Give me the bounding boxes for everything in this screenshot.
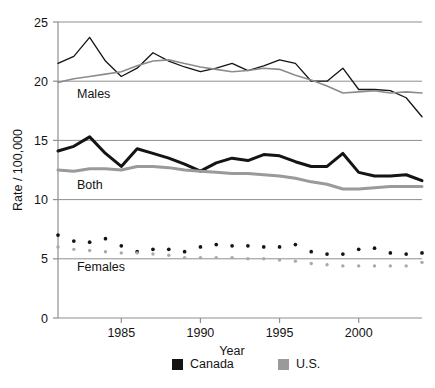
- legend-label-canada: Canada: [190, 357, 234, 371]
- series-females-canada-point: [183, 250, 187, 254]
- series-females-us-point: [135, 251, 138, 254]
- y-tick-labels: 0510152025: [34, 16, 48, 326]
- series-females-canada-point: [167, 247, 171, 251]
- series-females-us-point: [341, 264, 344, 267]
- annotation-both: Both: [77, 178, 103, 192]
- legend: CanadaU.S.: [172, 357, 320, 371]
- series-females-us-point: [404, 264, 407, 267]
- series-females-canada-point: [72, 239, 76, 243]
- x-tick-label-2000: 2000: [345, 326, 373, 340]
- y-tick-label-10: 10: [34, 193, 48, 207]
- series-females-canada-point: [104, 237, 108, 241]
- series-females-canada-point: [278, 245, 282, 249]
- series-females-us-point: [325, 263, 328, 266]
- series-females-canada-point: [151, 247, 155, 251]
- series-females-us-point: [151, 252, 154, 255]
- y-tick-label-20: 20: [34, 75, 48, 89]
- series-females-canada-point: [246, 244, 250, 248]
- series-females-canada-point: [119, 244, 123, 248]
- series-females-us-point: [373, 264, 376, 267]
- series-females-us-point: [389, 264, 392, 267]
- series-females-us-point: [72, 248, 75, 251]
- y-tick-label-15: 15: [34, 134, 48, 148]
- series-females-canada-point: [373, 246, 377, 250]
- series-females-us-point: [262, 257, 265, 260]
- legend-label-us: U.S.: [296, 357, 320, 371]
- legend-swatch-us: [278, 359, 289, 370]
- series-females-us-point: [199, 256, 202, 259]
- series-females-canada-point: [262, 245, 266, 249]
- series-females-canada-point: [88, 240, 92, 244]
- y-tick-label-25: 25: [34, 16, 48, 30]
- series-females-canada-point: [420, 251, 424, 255]
- series-group-both: [58, 137, 422, 189]
- line-chart: 05101520251985199019952000YearRate / 100…: [0, 0, 435, 388]
- series-females-us-point: [56, 245, 59, 248]
- x-axis-title: Year: [219, 344, 244, 358]
- series-females-canada-point: [341, 252, 345, 256]
- gridlines: [58, 22, 422, 259]
- series-females-canada-point: [56, 233, 60, 237]
- series-females-us-point: [120, 251, 123, 254]
- x-tick-label-1985: 1985: [107, 326, 135, 340]
- series-females-us-point: [294, 259, 297, 262]
- x-tick-label-1990: 1990: [187, 326, 215, 340]
- x-tick-label-1995: 1995: [266, 326, 294, 340]
- series-females-us-point: [230, 256, 233, 259]
- series-males-canada-line: [58, 37, 422, 116]
- series-females-canada-point: [309, 250, 313, 254]
- series-females-us-point: [278, 258, 281, 261]
- series-females-canada-point: [404, 252, 408, 256]
- x-tick-labels: 1985199019952000: [107, 326, 372, 340]
- y-tick-label-5: 5: [41, 252, 48, 266]
- series-both-us-line: [58, 166, 422, 188]
- y-axis-title: Rate / 100,000: [11, 129, 25, 211]
- annotation-females: Females: [77, 260, 125, 274]
- series-females-us-point: [167, 254, 170, 257]
- series-females-us-point: [183, 256, 186, 259]
- series-females-canada-point: [357, 247, 361, 251]
- series-females-us-point: [420, 261, 423, 264]
- series-females-canada-point: [294, 243, 298, 247]
- series-females-canada-point: [214, 243, 218, 247]
- series-females-canada-point: [388, 251, 392, 255]
- annotation-males: Males: [77, 87, 110, 101]
- series-females-us-point: [357, 264, 360, 267]
- y-tick-label-0: 0: [41, 312, 48, 326]
- series-annotations: MalesBothFemales: [77, 87, 125, 274]
- series-females-canada-point: [325, 252, 329, 256]
- series-females-us-point: [246, 257, 249, 260]
- chart-container: 05101520251985199019952000YearRate / 100…: [0, 0, 435, 388]
- series-females-canada-point: [199, 245, 203, 249]
- series-males-us-line: [58, 60, 422, 93]
- series-group-males: [58, 37, 422, 116]
- series-females-us-point: [215, 256, 218, 259]
- series-females-us-point: [104, 250, 107, 253]
- legend-swatch-canada: [172, 359, 183, 370]
- series-females-us-point: [88, 249, 91, 252]
- series-females-us-point: [310, 262, 313, 265]
- series-females-canada-point: [230, 244, 234, 248]
